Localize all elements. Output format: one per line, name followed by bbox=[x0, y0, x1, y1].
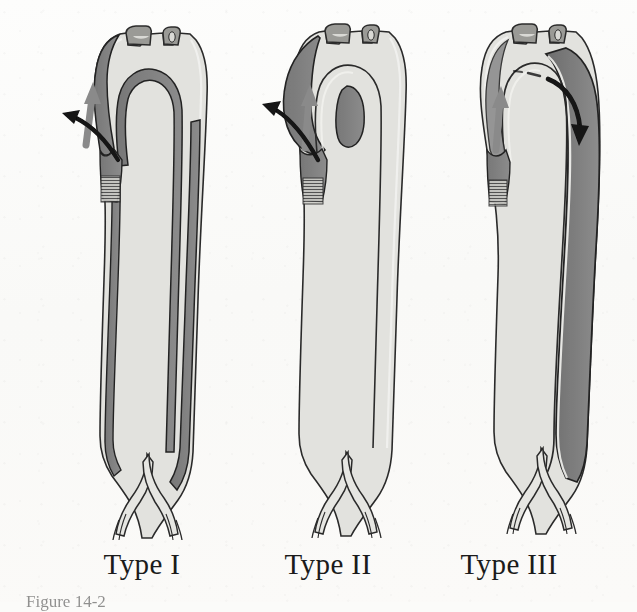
aortic-root-type-3 bbox=[487, 150, 510, 206]
panel-type-2 bbox=[262, 24, 406, 538]
label-type-2: Type II bbox=[228, 548, 428, 581]
aortic-root-type-1 bbox=[100, 149, 122, 202]
false-lumen-inner-arch-type-2 bbox=[336, 86, 364, 147]
panel-type-3 bbox=[480, 24, 599, 534]
panel-type-1 bbox=[62, 26, 207, 540]
figure-caption: Figure 14-2 bbox=[26, 592, 106, 612]
aortic-root-type-2 bbox=[300, 149, 327, 204]
label-type-3: Type III bbox=[404, 548, 614, 581]
label-type-1: Type I bbox=[42, 548, 242, 581]
panel-labels: Type I Type II Type III bbox=[0, 548, 637, 588]
